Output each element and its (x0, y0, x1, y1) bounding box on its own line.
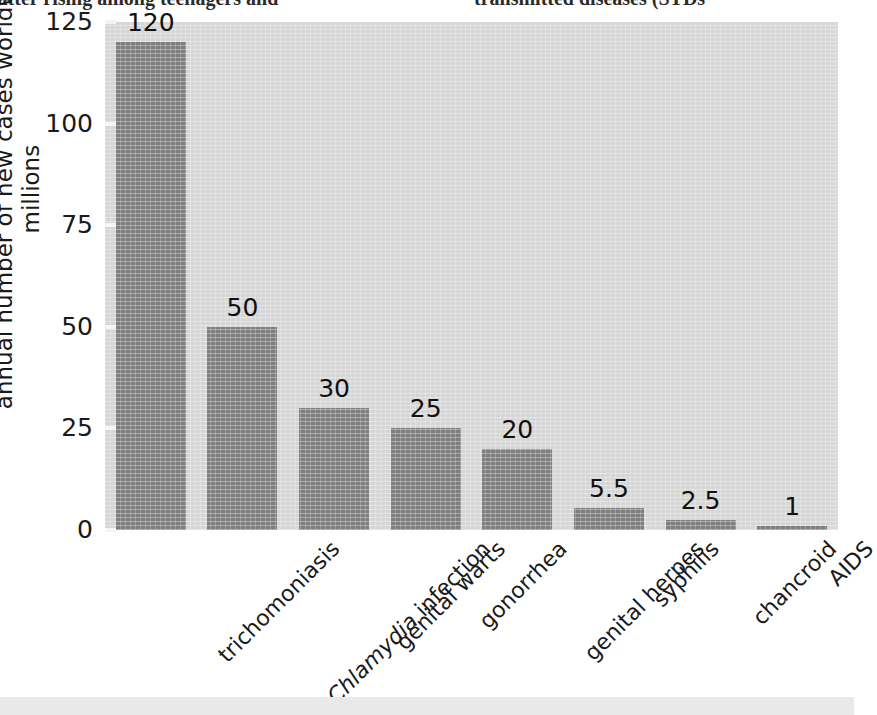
y-axis-tick-label-75: 75 (31, 212, 93, 237)
x-tick-label-trichomoniasis: trichomoniasis (213, 536, 344, 667)
bar-value-label-chancroid: 2.5 (651, 488, 751, 513)
x-tick-label-chancroid: chancroid (747, 536, 841, 630)
bar-value-label-genital-warts: 30 (284, 376, 384, 401)
y-axis-tick (105, 223, 116, 227)
y-axis-title-line2: millions (18, 0, 45, 409)
bar-value-label-chlamydia-infection: 50 (192, 295, 292, 320)
bar-chancroid[interactable] (666, 520, 736, 530)
y-axis-tick-label-50: 50 (31, 314, 93, 339)
bar-gonorrhea[interactable] (391, 428, 461, 530)
y-axis-title-line1: annual number of new cases worldwide (0, 0, 17, 409)
y-axis-tick (105, 528, 116, 532)
page-scan-shade-bottom (0, 697, 854, 715)
bar-value-label-genital-herpes: 20 (467, 417, 567, 442)
bar-genital-warts[interactable] (299, 408, 369, 530)
y-axis-tick-label-125: 125 (31, 9, 93, 34)
bar-trichomoniasis[interactable] (116, 42, 186, 530)
bar-chlamydia-infection[interactable] (207, 327, 277, 530)
bar-value-label-syphilis: 5.5 (559, 476, 659, 501)
y-axis-tick (105, 122, 116, 126)
plot-area (105, 22, 838, 530)
y-axis-title: annual number of new cases worldwide mil… (0, 0, 45, 409)
bar-genital-herpes[interactable] (482, 449, 552, 530)
y-axis-tick-label-100: 100 (31, 111, 93, 136)
bar-value-label-aids: 1 (742, 494, 842, 519)
y-axis-tick (105, 325, 116, 329)
bar-aids[interactable] (757, 526, 827, 530)
y-axis-tick (105, 426, 116, 430)
y-axis-tick-label-0: 0 (31, 517, 93, 542)
bar-syphilis[interactable] (574, 508, 644, 530)
y-axis-tick-label-25: 25 (31, 415, 93, 440)
bar-value-label-gonorrhea: 25 (376, 396, 476, 421)
bar-value-label-trichomoniasis: 120 (101, 10, 201, 35)
